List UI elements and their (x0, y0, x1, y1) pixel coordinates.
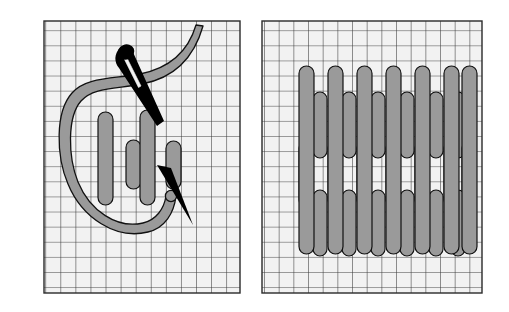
stitch-bar (429, 92, 443, 158)
stitch-bar (429, 190, 443, 256)
stitch-bar (313, 190, 327, 256)
stitch-bar (400, 190, 414, 256)
stitch-bar (313, 92, 327, 158)
stitch-bar (342, 190, 356, 256)
stitch-bar (126, 140, 141, 189)
stitch-column (328, 66, 343, 254)
stitch-column (386, 66, 401, 254)
illustration-root (0, 0, 509, 312)
stitch-column (299, 66, 314, 254)
stitch-column (462, 66, 477, 254)
stitch-bar (371, 190, 385, 256)
panel-right (262, 21, 482, 293)
stitch-column (415, 66, 430, 254)
stitch-bar (140, 110, 155, 205)
stitch-bar (400, 92, 414, 158)
stitch-bar (98, 112, 113, 205)
needlework-diagram (0, 0, 509, 312)
stitch-bar (371, 92, 385, 158)
stitch-column (444, 66, 459, 254)
stitch-column (357, 66, 372, 254)
panel-left (44, 21, 240, 293)
stitch-bar (342, 92, 356, 158)
